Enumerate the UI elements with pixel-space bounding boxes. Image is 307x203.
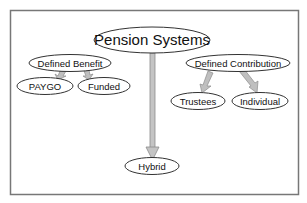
node-defined-contribution-label: Defined Contribution — [195, 58, 282, 69]
node-trustees-label: Trustees — [180, 96, 217, 107]
node-funded[interactable]: Funded — [78, 78, 130, 95]
node-defined-contribution[interactable]: Defined Contribution — [186, 55, 290, 72]
node-individual[interactable]: Individual — [232, 93, 288, 110]
node-paygo-label: PAYGO — [29, 81, 61, 92]
node-pension-systems[interactable]: Pension Systems — [94, 27, 210, 53]
node-hybrid-label: Hybrid — [138, 161, 165, 172]
node-paygo[interactable]: PAYGO — [17, 78, 73, 95]
node-hybrid[interactable]: Hybrid — [125, 158, 179, 175]
node-trustees[interactable]: Trustees — [171, 93, 225, 110]
node-funded-label: Funded — [88, 81, 120, 92]
node-defined-benefit-label: Defined Benefit — [38, 58, 103, 69]
node-pension-systems-label: Pension Systems — [94, 31, 210, 48]
pension-systems-diagram: Pension Systems Defined Benefit PAYGO Fu… — [0, 0, 307, 203]
node-defined-benefit[interactable]: Defined Benefit — [29, 55, 111, 72]
node-individual-label: Individual — [240, 96, 280, 107]
